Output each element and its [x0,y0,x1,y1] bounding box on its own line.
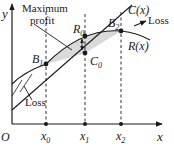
c0-label: C0 [90,54,102,70]
y-axis-label: y [0,6,8,21]
point-c0 [83,51,88,56]
r0-label: R0 [72,22,84,38]
max-profit-pointer [34,24,72,50]
loss-left-label: Loss [25,96,46,108]
origin-label: O [1,130,10,144]
tick-x0 [44,122,48,126]
point-b1 [44,62,49,67]
loss-right-label: Loss [148,14,169,26]
revenue-curve-label: R(x) [127,39,149,53]
loss-right-pointer [134,21,146,26]
profit-loss-diagram: y x O x0 x1 x2 Maximum profit Loss Loss … [0,0,174,147]
x2-label: x2 [115,129,125,145]
x1-label: x1 [79,129,89,145]
b2-label: B2 [108,16,119,32]
tick-x1 [83,122,87,126]
b1-label: B1 [32,52,43,68]
cost-curve-label: C(x) [128,3,149,17]
max-profit-label-line1: Maximum [22,2,68,14]
x0-label: x0 [40,129,50,145]
max-profit-label-line2: profit [30,14,54,26]
tick-x2 [119,122,123,126]
x-axis-label: x [156,129,163,144]
